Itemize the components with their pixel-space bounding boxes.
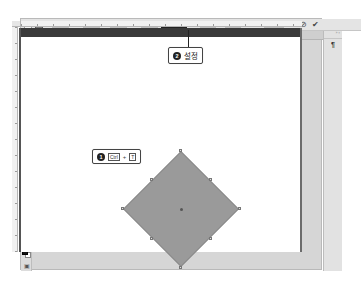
pasteboard-top	[21, 28, 302, 37]
horizontal-ruler[interactable]	[21, 21, 302, 27]
canvas-right-edge	[300, 28, 302, 252]
transform-handle-bottom[interactable]	[179, 266, 182, 269]
panel-collapse-button[interactable]: » ×	[324, 31, 342, 39]
plus-sign: +	[123, 154, 127, 160]
paragraph-panel-icon[interactable]: ¶	[329, 41, 337, 49]
right-panel-dock: » × ¶	[323, 31, 342, 271]
ctrl-key: Ctrl	[108, 153, 120, 161]
callout-2-leader	[188, 30, 189, 48]
step-2-badge: 2	[173, 52, 181, 60]
vertical-ruler[interactable]	[12, 27, 18, 252]
callout-step-1: 1 Ctrl + T	[92, 149, 141, 164]
transform-handle-right[interactable]	[238, 207, 241, 210]
screen-mode-icon[interactable]: ▣	[21, 261, 32, 271]
transform-handle-top[interactable]	[179, 149, 182, 152]
transform-handle-left[interactable]	[121, 207, 124, 210]
transform-handle-top-left[interactable]	[150, 178, 153, 181]
callout-step-2: 2 설정	[168, 47, 203, 64]
step-1-badge: 1	[97, 153, 105, 161]
commit-transform-icon[interactable]: ✔	[311, 21, 320, 29]
transform-handle-top-right[interactable]	[209, 178, 212, 181]
step-2-text: 설정	[184, 50, 198, 61]
transform-handle-bottom-right[interactable]	[209, 237, 212, 240]
t-key: T	[129, 153, 136, 161]
transform-handle-bottom-left[interactable]	[150, 237, 153, 240]
transform-center-point[interactable]	[180, 208, 183, 211]
